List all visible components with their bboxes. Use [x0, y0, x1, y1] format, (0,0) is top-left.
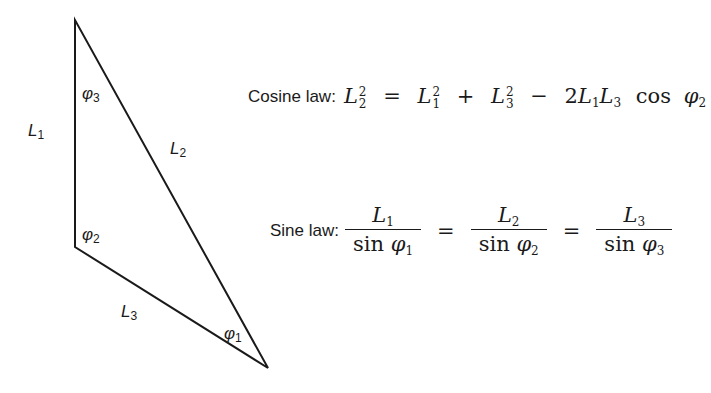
side-label-L3: L3: [121, 302, 137, 323]
sine-fraction-3: L3 sin φ3: [596, 203, 672, 258]
sine-fraction-2: L2 sin φ2: [471, 203, 547, 258]
cosine-law-formula: L22 = L21 + L23 − 2L1L3 cos φ2: [344, 84, 706, 110]
sine-fraction-1: L1 sin φ1: [345, 203, 421, 258]
sine-law-formula: L1 sin φ1 = L2 sin φ2 = L3 sin φ3: [339, 203, 678, 258]
sine-law-label: Sine law:: [270, 221, 339, 241]
side-label-L1: L1: [28, 121, 44, 142]
side-label-L2: L2: [170, 139, 186, 160]
angle-label-phi1: φ1: [224, 324, 242, 345]
angle-label-phi3: φ3: [82, 84, 100, 105]
angle-label-phi2: φ2: [82, 225, 100, 246]
triangle-diagram: [0, 0, 711, 393]
cosine-law-equation: Cosine law: L22 = L21 + L23 − 2L1L3 cos …: [248, 84, 706, 110]
sine-law-equation: Sine law: L1 sin φ1 = L2 sin φ2 = L3 sin…: [270, 203, 678, 258]
triangle: [75, 20, 268, 368]
cosine-law-label: Cosine law:: [248, 87, 336, 107]
